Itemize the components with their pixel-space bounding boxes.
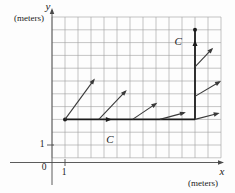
velocity-vector [99, 91, 126, 119]
point-label-c-top: C [174, 35, 181, 46]
vector-grid-diagram: y (meters) 1 0 1 x (meters) C C [0, 0, 235, 193]
y-axis-unit-label: (meters) [14, 14, 44, 23]
point-label-c-path: C [106, 134, 113, 145]
velocity-vector-arrowhead-icon [180, 112, 186, 116]
path-arrowhead-icon [193, 40, 198, 46]
velocity-vector-arrowhead-icon [215, 81, 221, 86]
x-axis-unit-label: (meters) [188, 179, 218, 188]
position-dot [193, 28, 197, 32]
x-axis-variable-label: x [220, 166, 225, 177]
velocity-vector-arrowhead-icon [90, 78, 95, 84]
velocity-vector [65, 80, 94, 119]
velocity-vector-arrowhead-icon [151, 103, 157, 108]
x-axis-tick-label: 1 [62, 168, 67, 178]
diagram-canvas [0, 0, 235, 193]
velocity-vector [133, 104, 156, 120]
y-axis-variable-label: y [46, 1, 51, 12]
velocity-vector-arrowhead-icon [213, 112, 219, 116]
y-axis-tick-label: 1 [40, 140, 45, 150]
velocity-vector [195, 82, 219, 96]
path-arrowhead-icon [106, 117, 112, 122]
origin-label: 0 [42, 163, 47, 173]
